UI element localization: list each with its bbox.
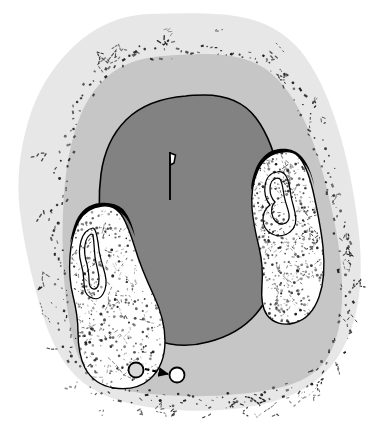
source-circle [129, 363, 144, 378]
cross-section-diagram [0, 0, 377, 432]
target-circle [170, 368, 185, 383]
figure-root [0, 0, 377, 432]
needle-flag [170, 153, 176, 165]
